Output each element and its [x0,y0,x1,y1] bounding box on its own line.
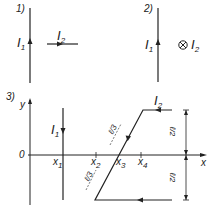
arrow-down-icon [61,128,66,134]
panel-3-label: 3) [6,92,15,102]
panel-3 [28,98,207,205]
i1-label: I1 [17,36,25,52]
tick-label-x3: x3 [116,157,125,170]
tick-label-x4: x4 [138,157,147,170]
i2-label: I2 [57,29,65,45]
arrow-up-icon [28,38,33,44]
tick-label-x2: x2 [91,157,100,170]
diagram-canvas [0,0,211,212]
i2-subscript: 2 [61,36,65,45]
panel-1 [28,8,79,83]
dim-upper-length-label: ℓ/2 [168,127,177,136]
i1-label: I1 [145,38,153,54]
i1-label: I1 [51,123,59,139]
tick-subscript: 1 [58,161,62,170]
dim-lower-length-label: ℓ/2 [168,173,177,182]
tick-subscript: 3 [121,161,125,170]
i1-subscript: 1 [149,45,153,54]
tick-subscript: 4 [143,161,147,170]
i1-subscript: 1 [55,130,59,139]
x-axis-label: x [201,158,206,168]
arrow-up-icon [156,39,161,45]
arrow-left-icon [137,198,143,203]
i2-subscript: 2 [158,101,162,110]
tick-subscript: 2 [96,161,100,170]
i2-label: I2 [191,38,199,54]
y-axis-label: y [20,100,25,110]
panel-1-label: 1) [16,4,25,14]
i2-subscript: 2 [195,45,199,54]
current-into-page-icon [179,41,187,49]
origin-label: 0 [19,150,25,160]
i1-subscript: 1 [21,43,25,52]
y-axis-arrow-icon [28,98,32,104]
panel-2-label: 2) [144,4,153,14]
panel-2 [156,8,188,82]
tick-label-x1: x1 [53,157,62,170]
i2-label: I2 [154,94,162,110]
